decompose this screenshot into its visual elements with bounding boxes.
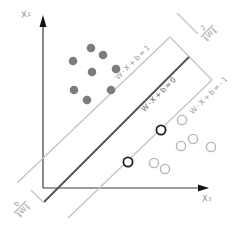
positive-point — [70, 86, 79, 95]
x-axis-arrow-icon — [198, 185, 209, 192]
svm-diagram: X₂ X₁ W·X+b=1 W·X+b=0 W·X+b=-1 2 ‖W‖ b ‖… — [0, 0, 237, 242]
positive-point — [83, 96, 92, 105]
negative-point — [149, 158, 158, 167]
negative-point — [160, 164, 169, 173]
positive-point — [87, 44, 96, 53]
negative-points-group — [149, 115, 215, 173]
positive-point — [88, 68, 97, 77]
negative-point — [177, 115, 186, 124]
negative-point — [206, 142, 215, 151]
x-axis-label: X₁ — [201, 192, 212, 203]
support-vectors-group — [123, 125, 165, 166]
positive-points-group — [69, 44, 121, 105]
support-vector-point — [123, 157, 132, 166]
support-vector-point — [156, 125, 165, 134]
margin-width-bracket-line — [170, 37, 212, 80]
positive-point — [107, 86, 116, 95]
positive-point — [99, 51, 108, 60]
bias-tick-line — [31, 190, 43, 202]
positive-point — [69, 57, 78, 66]
y-axis-arrow-icon — [40, 15, 47, 27]
negative-point — [188, 134, 197, 143]
negative-point — [176, 141, 185, 150]
